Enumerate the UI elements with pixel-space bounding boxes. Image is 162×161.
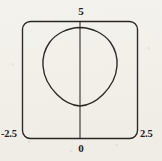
x-axis-origin-label: 0	[0, 143, 162, 154]
plot-figure	[0, 0, 162, 161]
x-axis-min-label: -2.5	[1, 129, 17, 140]
y-axis-max-label: 5	[0, 6, 162, 17]
x-axis-max-label: 2.5	[140, 129, 153, 140]
